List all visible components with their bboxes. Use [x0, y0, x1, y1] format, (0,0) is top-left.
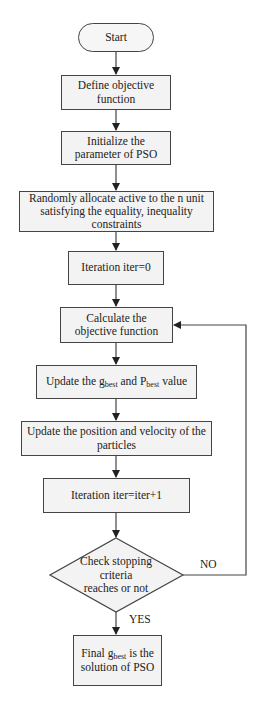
initialize-pso-label: Initialize the parameter of PSO	[66, 135, 166, 162]
random-allocate-box: Randomly allocate active to the n unit s…	[19, 191, 214, 232]
final-solution-label: Final gbest is the solution of PSO	[78, 647, 157, 674]
iteration-increment-label: Iteration iter=iter+1	[71, 489, 162, 503]
final-solution-box: Final gbest is the solution of PSO	[73, 635, 162, 686]
update-best-label: Update the gbest and Pbest value	[46, 375, 187, 389]
start-terminal: Start	[78, 23, 154, 52]
iteration-zero-box: Iteration iter=0	[68, 251, 164, 285]
define-objective-label: Define objective function	[66, 79, 166, 106]
iteration-zero-label: Iteration iter=0	[81, 261, 150, 275]
calculate-objective-label: Calculate the objective function	[65, 312, 168, 339]
calculate-objective-box: Calculate the objective function	[60, 307, 173, 343]
update-best-box: Update the gbest and Pbest value	[36, 365, 197, 399]
update-position-box: Update the position and velocity of the …	[21, 421, 212, 456]
start-label: Start	[105, 31, 127, 45]
decision-label: Check stopping criteria reaches or not	[66, 555, 166, 596]
no-label: NO	[200, 558, 217, 570]
random-allocate-label: Randomly allocate active to the n unit s…	[24, 192, 209, 231]
iteration-increment-box: Iteration iter=iter+1	[43, 478, 190, 513]
initialize-pso-box: Initialize the parameter of PSO	[61, 131, 171, 165]
update-position-label: Update the position and velocity of the …	[26, 425, 207, 452]
define-objective-box: Define objective function	[61, 75, 171, 110]
yes-label: YES	[129, 613, 151, 625]
